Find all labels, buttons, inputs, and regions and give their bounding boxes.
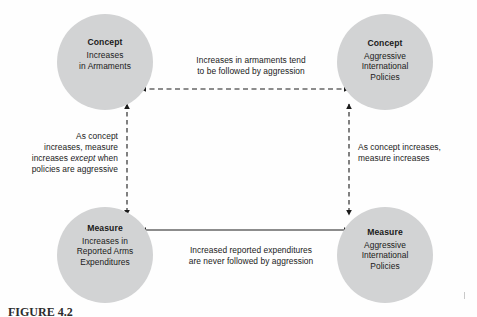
page-edge-mark	[464, 292, 465, 299]
node-measure-arms-expenditures: Measure Increases in Reported Arms Expen…	[57, 207, 153, 303]
edge-label-bottom: Increased reported expenditures are neve…	[158, 245, 344, 267]
edge-label-line: increases, measure	[8, 142, 118, 153]
node-line: Increases	[79, 50, 131, 61]
edge-label-line: policies are aggressive	[8, 164, 118, 175]
node-line: Aggressive	[362, 240, 409, 251]
node-line: International	[362, 61, 409, 72]
node-line: Expenditures	[77, 257, 134, 268]
node-title: Concept	[79, 37, 131, 48]
node-title: Measure	[362, 227, 409, 238]
edge-label-line: to be followed by aggression	[163, 66, 339, 77]
node-line: Increases in	[77, 236, 134, 247]
node-line: Policies	[362, 72, 409, 83]
node-line: International	[362, 250, 409, 261]
figure-container: Concept Increases in Armaments Concept A…	[0, 0, 477, 317]
node-line: Aggressive	[362, 51, 409, 62]
node-concept-armaments: Concept Increases in Armaments	[57, 14, 153, 110]
node-measure-aggressive-policies: Measure Aggressive International Policie…	[337, 207, 433, 303]
edge-label-left: As concept increases, measure increases …	[8, 131, 118, 175]
node-line: Reported Arms	[77, 246, 134, 257]
edge-label-line: measure increases	[358, 153, 470, 164]
edge-label-right: As concept increases, measure increases	[358, 142, 470, 164]
edge-label-line-emphasis: increases except when	[8, 153, 118, 164]
edge-label-line: Increases in armaments tend	[163, 55, 339, 66]
edge-label-text-after: when	[95, 153, 118, 163]
edge-label-line: Increased reported expenditures	[158, 245, 344, 256]
node-line: Policies	[362, 261, 409, 272]
node-line: in Armaments	[79, 61, 131, 72]
edge-label-text-before: increases	[32, 153, 71, 163]
edge-label-emphasis-word: except	[70, 153, 95, 163]
edge-label-line: As concept	[8, 131, 118, 142]
node-title: Concept	[362, 38, 409, 49]
node-concept-aggressive-policies: Concept Aggressive International Policie…	[337, 14, 433, 110]
figure-caption: FIGURE 4.2	[8, 306, 73, 317]
edge-label-line: are never followed by aggression	[158, 256, 344, 267]
edge-label-line: As concept increases,	[358, 142, 470, 153]
node-title: Measure	[77, 223, 134, 234]
edge-label-top: Increases in armaments tend to be follow…	[163, 55, 339, 77]
